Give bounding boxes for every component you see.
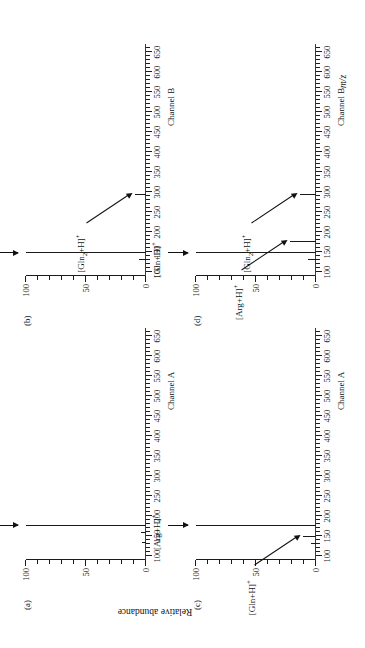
peak-annotation: [Gln+H]+: [150, 242, 162, 277]
spectrum-peak: [303, 536, 316, 537]
y-tick-minor: [303, 276, 304, 280]
x-tick-minor: [146, 219, 150, 220]
x-tick-label: 350: [323, 446, 332, 466]
y-axis-line: [196, 559, 316, 560]
spectrum-peak: [141, 532, 146, 533]
x-tick-minor: [316, 459, 320, 460]
x-tick-minor: [316, 95, 320, 96]
plot-area: 1001502002503003504004505005506006500501…: [196, 44, 316, 276]
x-tick-minor: [316, 143, 320, 144]
x-tick-label: 150: [323, 526, 332, 546]
x-tick-minor: [146, 507, 150, 508]
x-tick-minor: [146, 187, 150, 188]
x-tick-label: 600: [153, 346, 162, 366]
x-tick-label: 350: [153, 162, 162, 182]
x-tick-minor: [146, 491, 150, 492]
x-tick-label: 400: [323, 426, 332, 446]
y-axis-line: [26, 275, 146, 276]
x-tick-label: 200: [323, 506, 332, 526]
y-tick-minor: [49, 560, 50, 564]
x-tick-minor: [316, 479, 320, 480]
x-tick-minor: [146, 223, 150, 224]
y-tick-label: 0: [312, 284, 321, 304]
x-tick-minor: [316, 59, 320, 60]
x-tick-minor: [146, 411, 150, 412]
x-tick-minor: [146, 387, 150, 388]
x-tick-minor: [146, 143, 150, 144]
y-tick-minor: [73, 276, 74, 280]
x-tick-minor: [146, 359, 150, 360]
x-tick-minor: [146, 471, 150, 472]
x-tick-minor: [316, 347, 320, 348]
x-tick-label: 550: [153, 82, 162, 102]
x-tick-minor: [146, 199, 150, 200]
y-tick: [195, 560, 196, 566]
x-tick-label: 500: [153, 102, 162, 122]
x-tick-minor: [316, 123, 320, 124]
channel-label: Channel A: [336, 372, 346, 410]
x-tick-minor: [316, 551, 320, 552]
x-tick-minor: [316, 443, 320, 444]
y-tick-minor: [219, 276, 220, 280]
y-tick: [255, 276, 256, 282]
x-tick-minor: [316, 103, 320, 104]
spectrum-peak: [196, 252, 316, 253]
x-tick-minor: [316, 243, 320, 244]
x-tick-minor: [146, 139, 150, 140]
x-tick-minor: [146, 67, 150, 68]
x-tick-minor: [316, 491, 320, 492]
y-tick: [85, 276, 86, 282]
y-tick-minor: [109, 560, 110, 564]
x-tick-label: 600: [323, 62, 332, 82]
x-tick-label: 500: [153, 386, 162, 406]
x-tick-minor: [146, 59, 150, 60]
x-tick-minor: [146, 87, 150, 88]
spectrum-panel-c: 1001502002503003504004505005506006500501…: [196, 328, 316, 560]
spectrum-panel-a: 1001502002503003504004505005506006500501…: [26, 328, 146, 560]
x-tick-minor: [316, 543, 320, 544]
x-tick-minor: [316, 379, 320, 380]
x-tick-minor: [316, 247, 320, 248]
x-tick-minor: [316, 239, 320, 240]
y-tick-minor: [303, 560, 304, 564]
x-tick-minor: [316, 87, 320, 88]
x-tick-minor: [146, 399, 150, 400]
x-tick-minor: [316, 223, 320, 224]
y-tick-minor: [37, 276, 38, 280]
x-tick-minor: [146, 115, 150, 116]
x-tick-minor: [146, 499, 150, 500]
x-tick-minor: [316, 135, 320, 136]
annotation-arrow: [0, 252, 18, 253]
y-tick-label: 0: [142, 284, 151, 304]
x-tick-minor: [146, 371, 150, 372]
x-tick-minor: [316, 451, 320, 452]
x-tick-label: 650: [323, 42, 332, 62]
x-tick-minor: [316, 263, 320, 264]
y-tick-label: 100: [22, 568, 31, 588]
panel-letter: (b): [22, 316, 32, 327]
y-tick: [85, 560, 86, 566]
x-tick-minor: [316, 215, 320, 216]
y-tick-minor: [121, 560, 122, 564]
y-tick-minor: [109, 276, 110, 280]
x-tick-minor: [146, 79, 150, 80]
x-tick-minor: [146, 207, 150, 208]
x-tick-label: 100: [323, 546, 332, 566]
x-tick-minor: [316, 55, 320, 56]
x-tick-minor: [146, 167, 150, 168]
y-tick-minor: [37, 560, 38, 564]
x-tick-minor: [316, 351, 320, 352]
x-tick-minor: [146, 123, 150, 124]
spectrum-panel-b: 1001502002503003504004505005506006500501…: [26, 44, 146, 276]
annotation-arrow: [168, 525, 188, 526]
x-tick-minor: [146, 443, 150, 444]
x-tick-minor: [316, 399, 320, 400]
x-tick-minor: [316, 63, 320, 64]
x-tick-minor: [316, 219, 320, 220]
spectrum-peak: [311, 543, 316, 544]
y-tick: [195, 276, 196, 282]
peak-annotation: [Gln2+H]+: [74, 234, 89, 273]
x-tick-label: 550: [323, 82, 332, 102]
x-tick-label: 350: [323, 162, 332, 182]
x-tick-minor: [146, 99, 150, 100]
